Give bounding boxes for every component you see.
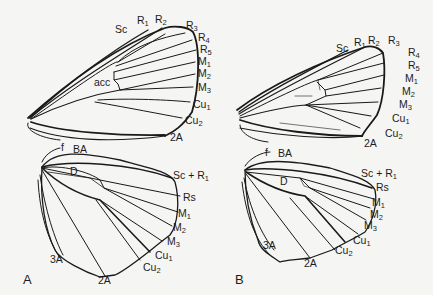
label-a-hw-cu2: Cu2 [143,262,161,275]
label-b-fw-cu1: Cu1 [392,113,410,126]
label-b-fw-r3: R3 [388,35,400,48]
label-a-hw-sc-r1: Sc + R1 [173,170,209,183]
label-b-fw-m3: M3 [399,99,412,112]
label-b-fw-r4: R4 [408,47,420,60]
label-a-fw-2a: 2A [170,132,183,143]
label-a-hw-d: D [70,166,78,177]
label-a-fw-cu1: Cu1 [193,99,211,112]
label-b-hw-2a: 2A [304,258,317,269]
label-b-hw-m3: M3 [364,220,377,233]
label-a-hw-ba: BA [73,144,87,155]
label-a-fw-r1: R1 [137,15,149,28]
label-b-fw-cu2: Cu2 [385,128,403,141]
label-b-fw-r5: R5 [408,60,420,73]
label-a-hw-rs: Rs [183,192,196,203]
panel-label-a: A [23,273,32,286]
label-a-hw-m2: M2 [173,222,186,235]
panel-b-forewing [237,46,384,142]
label-b-fw-sc: Sc [336,43,348,54]
label-a-hw-2a: 2A [98,275,111,286]
label-a-fw-r2: R2 [155,14,167,27]
label-a-hw-m1: M1 [178,208,191,221]
label-a-fw-acc: acc [94,77,110,88]
label-b-fw-r2: R2 [368,35,380,48]
label-a-fw-cu2: Cu2 [185,115,203,128]
label-a-fw-m3: M3 [198,82,211,95]
label-a-hw-cu1: Cu1 [155,250,173,263]
label-b-hw-rs: Rs [376,182,389,193]
label-b-hw-cu2: Cu2 [335,245,353,258]
label-b-hw-sc-r1: Sc + R1 [361,168,397,181]
label-a-fw-sc: Sc [115,24,127,35]
label-b-fw-m1: M1 [405,73,418,86]
panel-a-forewing [28,27,199,140]
label-a-hw-f: f [61,142,64,153]
label-a-hw-3a: 3A [50,254,63,265]
label-b-fw-r1: R1 [354,37,366,50]
label-b-hw-d: D [280,176,288,187]
label-b-fw-2a: 2A [364,138,377,149]
label-b-hw-ba: BA [278,148,292,159]
panel-label-b: B [235,273,244,286]
label-b-fw-m2: M2 [402,86,415,99]
label-a-hw-m3: M3 [167,236,180,249]
label-a-fw-m2: M2 [198,68,211,81]
label-b-hw-3a: 3A [263,240,276,251]
label-b-hw-cu1: Cu1 [353,235,371,248]
label-b-hw-f: f [265,147,268,158]
wing-venation-figure: Sc R1 R2 R3 R4 R5 M1 M2 M3 Cu1 Cu2 2A ac… [0,0,433,295]
label-a-fw-r3: R3 [186,20,198,33]
